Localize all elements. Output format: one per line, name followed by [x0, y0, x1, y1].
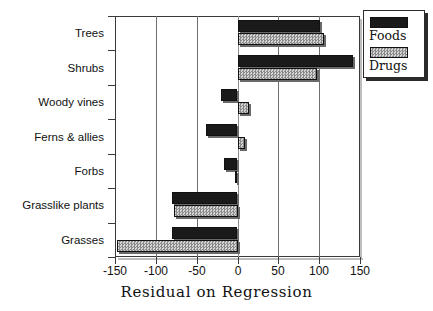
y-category-label-4: Forbs: [75, 165, 104, 177]
y-category-label-6: Grasses: [61, 234, 104, 246]
y-tick-3: [108, 119, 115, 120]
legend-swatch-foods: [370, 17, 408, 28]
legend-swatch-drugs: [370, 47, 408, 58]
y-tick-0: [108, 16, 115, 17]
bar-drugs-woody-vines: [238, 102, 249, 114]
x-tick-label--50: -50: [175, 265, 219, 278]
x-tick-label--100: -100: [134, 265, 178, 278]
gridline--100: [156, 16, 157, 257]
x-tick-label-0: 0: [216, 265, 260, 278]
y-tick-4: [108, 154, 115, 155]
bar-foods-forbs: [224, 158, 237, 170]
bar-foods-grasslike-plants: [172, 192, 237, 204]
x-tick-label-150: 150: [338, 265, 382, 278]
x-tick-100: [319, 257, 320, 264]
residual-bar-chart: TreesShrubsWoody vinesFerns & alliesForb…: [0, 0, 433, 311]
y-tick-2: [108, 85, 115, 86]
y-tick-5: [108, 188, 115, 189]
bar-drugs-grasses: [117, 240, 238, 252]
x-tick--50: [197, 257, 198, 264]
bar-drugs-forbs: [235, 171, 237, 183]
x-tick-label-100: 100: [297, 265, 341, 278]
chart-legend: Foods Drugs: [363, 10, 425, 78]
gridline--50: [197, 16, 198, 257]
bar-drugs-trees: [238, 33, 324, 45]
bar-foods-shrubs: [238, 55, 353, 67]
x-tick-0: [238, 257, 239, 264]
plot-frame-shadow-bottom: [118, 258, 363, 260]
gridline-100: [319, 16, 320, 257]
bar-drugs-shrubs: [238, 68, 317, 80]
x-axis-title: Residual on Regression: [0, 283, 433, 301]
bar-foods-trees: [238, 20, 320, 32]
y-category-label-2: Woody vines: [38, 96, 104, 108]
y-tick-end: [108, 257, 115, 258]
x-tick-150: [360, 257, 361, 264]
x-tick-label--150: -150: [93, 265, 137, 278]
y-category-label-0: Trees: [75, 27, 104, 39]
legend-label-foods: Foods: [369, 29, 406, 43]
y-category-label-1: Shrubs: [68, 62, 104, 74]
x-tick-50: [278, 257, 279, 264]
x-tick--100: [156, 257, 157, 264]
bar-drugs-grasslike-plants: [174, 205, 238, 217]
plot-frame-shadow-right: [360, 19, 362, 260]
legend-label-drugs: Drugs: [369, 59, 407, 73]
y-tick-6: [108, 223, 115, 224]
y-axis-labels: TreesShrubsWoody vinesFerns & alliesForb…: [0, 0, 104, 311]
y-category-label-5: Grasslike plants: [22, 199, 104, 211]
y-tick-1: [108, 50, 115, 51]
bar-foods-grasses: [172, 227, 237, 239]
gridline-50: [278, 16, 279, 257]
y-category-label-3: Ferns & allies: [34, 131, 104, 143]
bar-foods-woody-vines: [221, 89, 237, 101]
x-tick--150: [115, 257, 116, 264]
bar-foods-ferns-allies: [206, 124, 237, 136]
bar-drugs-ferns-allies: [238, 137, 245, 149]
x-tick-label-50: 50: [256, 265, 300, 278]
